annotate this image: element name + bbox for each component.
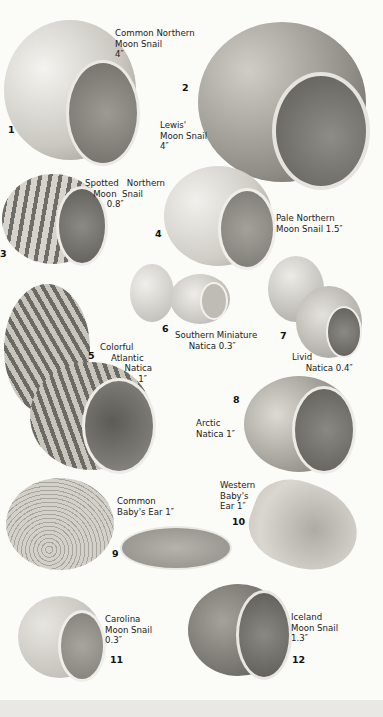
shell-aperture-1: [66, 60, 140, 166]
species-number-11: 11: [110, 654, 123, 665]
species-number-2: 2: [182, 82, 189, 93]
shell-aperture-7: [326, 306, 362, 358]
page-bottom-edge: [0, 700, 383, 717]
species-label-8: Arctic Natica 1″: [196, 418, 235, 439]
species-number-6: 6: [162, 323, 169, 334]
species-number-8: 8: [233, 394, 240, 405]
shell-illustration-6a: [130, 264, 174, 322]
shell-aperture-4: [218, 188, 276, 270]
species-number-10: 10: [232, 516, 245, 527]
species-number-12: 12: [292, 654, 305, 665]
shell-aperture-11: [58, 610, 106, 682]
shell-aperture-2: [272, 72, 370, 190]
species-number-4: 4: [155, 228, 162, 239]
species-number-7: 7: [280, 330, 287, 341]
shell-illustration-9b: [120, 526, 232, 570]
species-label-11: Carolina Moon Snail 0.3″: [105, 614, 152, 646]
species-label-12: Iceland Moon Snail 1.3″: [291, 612, 338, 644]
species-label-1: Common Northern Moon Snail 4″: [115, 28, 195, 60]
species-label-4: Pale Northern Moon Snail 1.5″: [276, 213, 343, 234]
species-number-9: 9: [112, 548, 119, 559]
species-number-3: 3: [0, 248, 7, 259]
species-label-6: Southern Miniature Natica 0.3″: [175, 330, 257, 351]
species-label-9: Common Baby's Ear 1″: [117, 496, 174, 517]
shell-aperture-6: [200, 282, 228, 320]
species-label-10: Western Baby's Ear 1″: [220, 480, 255, 512]
species-label-5: Colorful Atlantic Natica 1″: [100, 342, 152, 384]
shell-aperture-8: [292, 386, 356, 474]
species-label-7: Livid Natica 0.4″: [292, 352, 353, 373]
shell-illustration-9a: [6, 478, 114, 570]
species-number-5: 5: [88, 350, 95, 361]
species-label-2: Lewis' Moon Snail 4″: [160, 120, 207, 152]
shell-aperture-5: [82, 378, 156, 474]
shell-illustration-10: [239, 468, 369, 584]
species-label-3: Spotted Northern Moon Snail 0.8″: [85, 178, 165, 210]
shell-aperture-12: [236, 590, 292, 680]
species-number-1: 1: [8, 124, 15, 135]
shell-illustration-plate: 1 Common Northern Moon Snail 4″ 2 Lewis'…: [0, 0, 383, 717]
